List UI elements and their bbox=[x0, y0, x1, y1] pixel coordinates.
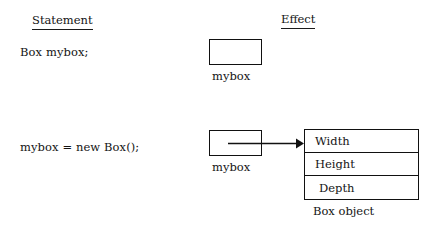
object-field-row: Depth bbox=[305, 176, 418, 199]
diagram-canvas: Statement Effect Box mybox; mybox mybox … bbox=[0, 0, 432, 232]
statement-declaration: Box mybox; bbox=[20, 47, 89, 59]
column-header-statement: Statement bbox=[32, 14, 93, 30]
arrow-right-icon bbox=[228, 136, 304, 151]
column-header-effect: Effect bbox=[281, 13, 315, 29]
object-field-label: Width bbox=[315, 134, 350, 148]
reference-box-null bbox=[209, 39, 262, 65]
statement-instantiation: mybox = new Box(); bbox=[20, 142, 139, 154]
object-field-label: Height bbox=[315, 157, 355, 171]
object-field-row: Width bbox=[305, 130, 418, 153]
object-field-table: Width Height Depth bbox=[304, 129, 419, 200]
object-field-label: Depth bbox=[319, 181, 354, 195]
reference-box-label-2: mybox bbox=[212, 162, 250, 174]
reference-box-label-1: mybox bbox=[212, 71, 250, 83]
object-field-row: Height bbox=[305, 153, 418, 176]
object-caption: Box object bbox=[313, 206, 374, 218]
